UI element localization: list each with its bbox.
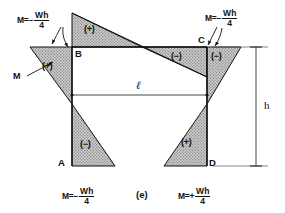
equation-bottom-right-denominator: 4 [200,197,205,206]
sign-left-column-upper: (+) [42,62,53,71]
span-dimension-line [70,93,208,96]
moment-area-left-column-upper [30,47,72,104]
equation-bottom-right-numerator: Wh [195,187,210,197]
sign-right-column-upper: (−) [211,52,222,61]
sign-beam-left: (+) [84,25,95,34]
equation-top-right-denominator: 4 [227,19,232,28]
node-label-b: B [75,49,82,59]
equation-top-left-lead: M=− [17,16,33,25]
node-label-c: C [198,35,205,45]
equation-top-left-denominator: 4 [39,21,44,30]
top-left-equation-leader [52,27,68,47]
equation-bottom-left-lead: M=− [62,192,78,201]
equation-bottom-left-fraction: Wh 4 [79,187,94,206]
equation-top-right-fraction: Wh 4 [222,9,237,28]
equation-bottom-right-lead: M=+ [178,192,194,201]
equation-top-left-fraction: Wh 4 [34,11,49,30]
height-dimension-label: h [264,100,270,111]
figure-label: (e) [136,190,148,200]
equation-bottom-right-fraction: Wh 4 [195,187,210,206]
sign-beam-right: (−) [171,52,182,61]
sign-right-column-lower: (+) [181,138,192,147]
sign-left-column-lower: (−) [80,140,91,149]
span-dimension-label: ℓ [136,80,141,91]
top-right-equation-leader [208,27,222,46]
equation-bottom-left-denominator: 4 [84,197,89,206]
equation-bottom-left: M=− Wh 4 [62,186,94,206]
moment-area-right-column-lower [164,104,207,166]
moment-pointer-label: M [13,72,21,81]
equation-top-left-numerator: Wh [34,11,49,21]
node-label-d: D [209,158,216,168]
bending-moment-diagram [0,0,285,213]
equation-top-left: M=− Wh 4 [17,10,49,30]
equation-bottom-right: M=+ Wh 4 [178,186,210,206]
equation-top-right-numerator: Wh [222,9,237,19]
equation-top-right-lead: M=− [205,14,221,23]
moment-area-left-column-lower [72,104,115,166]
node-label-a: A [58,158,65,168]
equation-bottom-left-numerator: Wh [79,187,94,197]
equation-top-right: M=− Wh 4 [205,8,237,28]
